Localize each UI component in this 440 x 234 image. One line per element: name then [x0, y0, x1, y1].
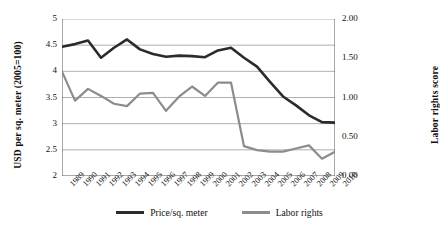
x-tick-label: 1997 — [172, 182, 178, 188]
x-tick-label: 1993 — [120, 182, 126, 188]
left-tick-label: 5 — [31, 13, 57, 23]
right-tick-label: 1.00 — [342, 92, 372, 102]
x-tick-label: 2000 — [211, 182, 217, 188]
chart-legend: Price/sq. meterLabor rights — [0, 207, 439, 218]
x-tick-label: 2007 — [302, 182, 308, 188]
x-tick-label: 1991 — [94, 182, 100, 188]
x-tick-label: 1995 — [146, 182, 152, 188]
series-line — [62, 72, 335, 159]
x-tick-label: 1999 — [198, 182, 204, 188]
x-tick-label: 2002 — [237, 182, 243, 188]
left-tick-label: 3 — [31, 118, 57, 128]
legend-label: Price/sq. meter — [150, 207, 208, 218]
left-tick-label: 2.5 — [31, 144, 57, 154]
left-tick-label: 4.5 — [31, 39, 57, 49]
x-tick-label: 2005 — [276, 182, 282, 188]
legend-line-swatch — [242, 211, 270, 214]
legend-item[interactable]: Labor rights — [242, 207, 323, 218]
legend-line-swatch — [116, 211, 144, 214]
right-tick-label: 2.00 — [342, 13, 372, 23]
x-tick-label: 1996 — [159, 182, 165, 188]
x-tick-label: 2004 — [263, 182, 269, 188]
right-tick-label: 0.50 — [342, 131, 372, 141]
x-tick-label: 1998 — [185, 182, 191, 188]
x-tick-label: 1992 — [107, 182, 113, 188]
legend-label: Labor rights — [276, 207, 323, 218]
right-y-axis-title: Labor rights score — [430, 25, 440, 185]
left-tick-label: 2 — [31, 170, 57, 180]
legend-item[interactable]: Price/sq. meter — [116, 207, 208, 218]
left-tick-label: 4 — [31, 65, 57, 75]
x-tick-label: 1994 — [133, 182, 139, 188]
left-y-axis-title: USD per sq. meter (2005=100) — [13, 25, 23, 185]
x-tick-label: 1990 — [81, 182, 87, 188]
x-tick-label: 1989 — [68, 182, 74, 188]
x-tick-label: 2006 — [289, 182, 295, 188]
x-tick-label: 2001 — [224, 182, 230, 188]
x-tick-label: 2003 — [250, 182, 256, 188]
x-tick-label: 2009 — [328, 182, 334, 188]
plot-area — [62, 19, 335, 176]
left-tick-label: 3.5 — [31, 92, 57, 102]
x-tick-label: 2010 — [341, 182, 347, 188]
x-tick-label: 2008 — [315, 182, 321, 188]
series-line — [62, 39, 335, 122]
plot-svg — [62, 19, 335, 176]
right-tick-label: 1.50 — [342, 52, 372, 62]
